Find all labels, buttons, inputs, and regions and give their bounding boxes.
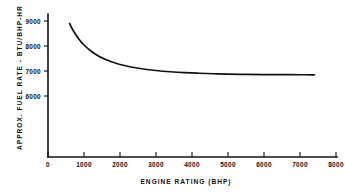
x-axis-title: ENGINE RATING (BHP) [140,178,231,186]
x-tick-label-4000: 4000 [184,161,200,168]
x-tick-label-3000: 3000 [148,161,164,168]
y-tick-label-6000: 6000 [25,93,41,100]
fuel-rate-line-chart: 9000 8000 7000 6000 0 1000 2000 3000 400… [0,0,345,194]
x-tick-label-0: 0 [46,161,50,168]
y-tick-label-8000: 8000 [25,43,41,50]
y-tick-label-9000: 9000 [25,18,41,25]
x-tick-label-2000: 2000 [112,161,128,168]
y-axis-title: APPROX. FUEL RATE - BTU/BHP-HR [16,5,23,150]
x-tick-label-1000: 1000 [76,161,92,168]
y-tick-label-7000: 7000 [25,68,41,75]
x-tick-label-6000: 6000 [256,161,272,168]
x-tick-label-7000: 7000 [292,161,308,168]
x-tick-label-8000: 8000 [328,161,344,168]
chart-figure: 9000 8000 7000 6000 0 1000 2000 3000 400… [0,0,345,194]
x-tick-label-5000: 5000 [220,161,236,168]
fuel-rate-curve [70,24,315,75]
